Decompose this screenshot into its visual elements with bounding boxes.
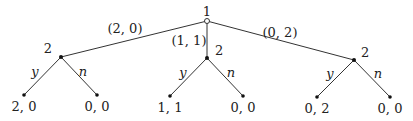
action-label: n: [227, 65, 235, 80]
player-label: 2: [44, 41, 52, 56]
payoff-label: 0, 0: [85, 99, 110, 114]
edge-node-to-leaf: [24, 57, 61, 95]
player-label: 2: [361, 45, 369, 60]
leaf-node: [241, 94, 245, 98]
edge-node-to-leaf: [354, 60, 390, 97]
action-label: n: [79, 64, 87, 79]
payoff-label: 0, 0: [378, 101, 403, 116]
leaf-node: [95, 93, 99, 97]
action-label: (2, 0): [108, 21, 143, 36]
leaf-node: [22, 93, 26, 97]
action-label: y: [178, 65, 187, 80]
leaf-node: [168, 94, 172, 98]
payoff-label: 1, 1: [158, 100, 183, 115]
leaf-node: [388, 95, 392, 99]
action-label: n: [374, 66, 382, 81]
action-label: y: [325, 66, 334, 81]
decision-node-player-2: [352, 58, 356, 62]
edge-node-to-leaf: [317, 60, 354, 97]
action-label: (0, 2): [263, 25, 298, 40]
leaf-node: [315, 95, 319, 99]
root-node: [205, 19, 210, 24]
payoff-label: 2, 0: [12, 99, 37, 114]
payoff-label: 0, 0: [231, 100, 256, 115]
player-label: 1: [203, 4, 211, 19]
action-label: y: [30, 64, 39, 79]
game-tree: (2, 0)y2, 0n0, 02(1, 1)y1, 1n0, 02(0, 2)…: [0, 0, 413, 121]
edge-node-to-leaf: [170, 58, 207, 96]
payoff-label: 0, 2: [305, 101, 330, 116]
decision-node-player-2: [59, 55, 63, 59]
player-label: 2: [215, 43, 223, 58]
action-label: (1, 1): [172, 33, 207, 48]
edge-node-to-leaf: [207, 58, 243, 96]
decision-node-player-2: [205, 56, 209, 60]
